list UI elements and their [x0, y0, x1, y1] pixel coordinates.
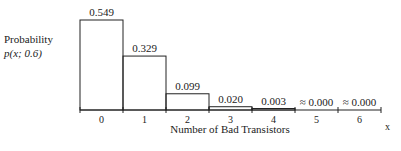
y-axis-label-line2: p(x; 0.6) — [3, 47, 42, 60]
x-tick-label: 0 — [99, 114, 104, 125]
data-label: 0.020 — [218, 93, 243, 105]
y-axis-label-line1: Probability — [4, 33, 53, 45]
x-tick-label: 1 — [142, 114, 147, 125]
data-label: 0.099 — [175, 80, 200, 92]
bar — [123, 56, 166, 110]
x-axis-symbol: x — [385, 121, 390, 132]
chart: Probability p(x; 0.6) Number of Bad Tran… — [0, 0, 401, 151]
x-tick-label: 5 — [314, 114, 319, 125]
x-tick-label: 3 — [228, 114, 233, 125]
data-label: ≈ 0.000 — [343, 96, 377, 108]
bar — [166, 94, 209, 110]
chart-svg: Probability p(x; 0.6) Number of Bad Tran… — [0, 0, 401, 151]
bar — [80, 20, 123, 110]
x-tick-label: 4 — [271, 114, 276, 125]
data-label: 0.549 — [89, 6, 114, 18]
data-label: 0.329 — [132, 42, 157, 54]
x-tick-label: 6 — [357, 114, 362, 125]
data-label: 0.003 — [261, 95, 286, 107]
data-label: ≈ 0.000 — [300, 96, 334, 108]
x-tick-label: 2 — [185, 114, 190, 125]
